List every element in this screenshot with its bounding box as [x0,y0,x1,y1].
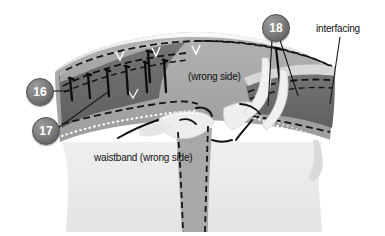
figure-canvas: 16 17 18 (wrong side) waistband (wrong s… [0,0,385,236]
callout-17[interactable]: 17 [32,117,60,145]
callout-16-number: 16 [33,85,46,99]
callout-17-number: 17 [39,124,52,138]
label-interfacing: interfacing [316,23,360,34]
waistband-illustration [0,0,385,236]
label-waistband: waistband (wrong side) [94,152,192,163]
label-wrong-side: (wrong side) [188,71,241,82]
callout-18[interactable]: 18 [262,14,290,42]
callout-18-number: 18 [269,21,282,35]
callout-16[interactable]: 16 [26,78,54,106]
